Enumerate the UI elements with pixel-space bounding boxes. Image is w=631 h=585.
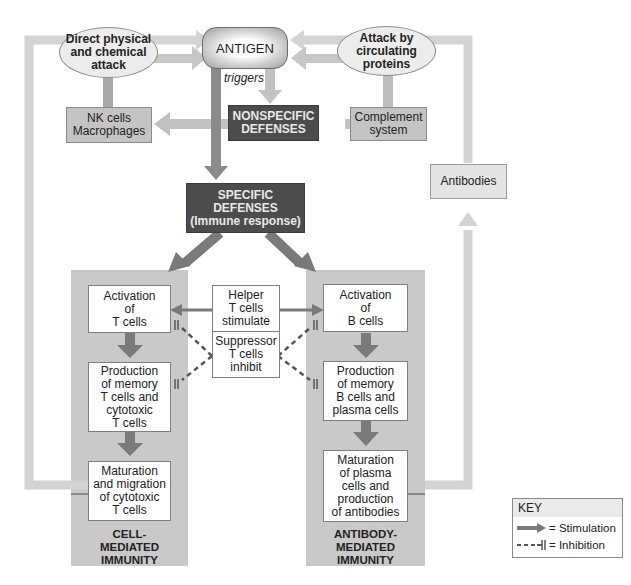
stimulation-arrow-icon: [517, 523, 547, 533]
legend-key: KEY = Stimulation = Inhibition: [512, 498, 623, 558]
maturation-plasma-cells-node: Maturation of plasma cells and productio…: [323, 450, 408, 522]
key-title: KEY: [513, 499, 622, 517]
activation-t-cells-node: Activation of T cells: [88, 285, 171, 333]
triggers-label: triggers: [222, 71, 266, 85]
activation-b-cells-node: Activation of B cells: [323, 284, 408, 332]
key-stimulation-row: = Stimulation: [517, 522, 616, 534]
specific-defenses-node: SPECIFIC DEFENSES (Immune response): [186, 183, 305, 233]
nonspecific-defenses-node: NONSPECIFIC DEFENSES: [228, 105, 319, 141]
antibody-mediated-immunity-label: ANTIBODY- MEDIATED IMMUNITY: [323, 528, 408, 567]
antigen-node: ANTIGEN: [202, 27, 288, 69]
circulating-attack-node: Attack by circulating proteins: [337, 26, 436, 76]
immune-defense-diagram: Direct physical and chemical attack ANTI…: [0, 0, 631, 585]
inhibition-line-icon: [517, 540, 547, 550]
suppressor-t-cells-node: Suppressor T cells inhibit: [212, 331, 280, 378]
key-stimulation-label: = Stimulation: [549, 522, 616, 534]
key-inhibition-label: = Inhibition: [549, 539, 605, 551]
antibodies-node: Antibodies: [430, 164, 507, 199]
complement-system-node: Complement system: [350, 107, 427, 141]
nk-macrophages-node: NK cells Macrophages: [66, 107, 152, 143]
helper-t-cells-node: Helper T cells stimulate: [212, 285, 280, 332]
direct-attack-node: Direct physical and chemical attack: [59, 27, 158, 78]
key-inhibition-row: = Inhibition: [517, 539, 605, 551]
production-memory-t-cells-node: Production of memory T cells and cytotox…: [88, 362, 171, 432]
production-memory-b-cells-node: Production of memory B cells and plasma …: [323, 361, 408, 421]
maturation-cytotoxic-t-cells-node: Maturation and migration of cytotoxic T …: [88, 461, 171, 521]
cell-mediated-immunity-label: CELL- MEDIATED IMMUNITY: [88, 528, 171, 567]
